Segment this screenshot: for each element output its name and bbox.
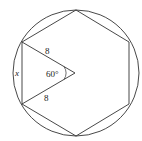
angle-label: 60° <box>46 69 59 79</box>
inscribed-hexagon <box>22 10 129 136</box>
diagram-svg: 8 8 60° x <box>0 0 142 141</box>
radius-label-lower: 8 <box>44 93 49 103</box>
angle-arc <box>64 67 66 80</box>
circumscribed-circle <box>13 10 139 136</box>
side-label: x <box>14 68 19 78</box>
geometry-diagram: 8 8 60° x <box>0 0 142 141</box>
radius-label-upper: 8 <box>45 46 50 56</box>
